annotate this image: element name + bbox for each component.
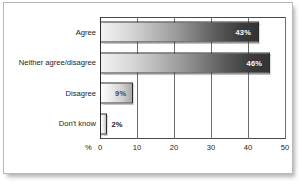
bar-value-neither-agree-disagree: 46%: [247, 58, 270, 67]
x-axis-unit-label: %: [85, 143, 92, 152]
category-label-neither-agree-disagree: Neither agree/disagree: [4, 59, 96, 67]
category-axis-labels: Agree Neither agree/disagree Disagree Do…: [4, 17, 96, 139]
category-label-dont-know: Don't know: [4, 120, 96, 128]
bar-value-disagree: 9%: [115, 89, 132, 98]
category-label-disagree: Disagree: [4, 90, 96, 98]
plot-area: 43% 46% 9% 2%: [100, 17, 286, 139]
bar-value-agree: 43%: [235, 28, 258, 37]
bar-disagree[interactable]: 9%: [100, 83, 133, 104]
x-tick-label-30: 30: [207, 143, 215, 152]
bar-row: 46%: [100, 48, 286, 79]
bar-row: 43%: [100, 17, 286, 48]
bar-agree[interactable]: 43%: [100, 22, 259, 43]
bar-row: 9%: [100, 78, 286, 109]
x-tick-label-40: 40: [244, 143, 252, 152]
x-tick-label-0: 0: [98, 143, 102, 152]
bar-dont-know[interactable]: 2%: [100, 113, 107, 134]
x-tick-label-10: 10: [133, 143, 141, 152]
bar-row: 2%: [100, 109, 286, 140]
x-axis-tick-labels: 0 10 20 30 40 50: [100, 143, 286, 155]
bar-neither-agree-disagree[interactable]: 46%: [100, 52, 270, 73]
bar-value-dont-know: 2%: [111, 119, 122, 128]
x-tick-label-20: 20: [170, 143, 178, 152]
chart-card: Agree Neither agree/disagree Disagree Do…: [3, 2, 293, 174]
category-label-agree: Agree: [4, 29, 96, 37]
x-tick-label-50: 50: [281, 143, 289, 152]
